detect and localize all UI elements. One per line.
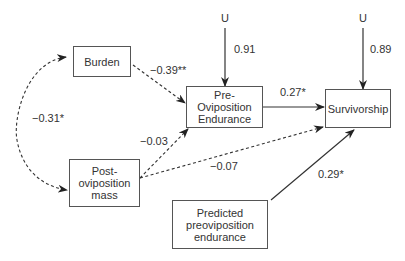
node-pre-oviposition-endurance: Pre- Oviposition Endurance [186, 86, 263, 128]
label-u2: U [359, 12, 367, 24]
node-post-line-3: mass [91, 189, 117, 201]
node-predicted-line-1: Predicted [197, 207, 243, 219]
arrow-predicted-to-survivorship [271, 130, 354, 200]
coef-pre-to-survivorship: 0.27* [280, 86, 306, 98]
node-burden-label: Burden [84, 56, 119, 68]
node-pre-line-3: Endurance [198, 113, 251, 125]
coef-post-to-pre: −0.03 [140, 135, 168, 147]
node-pre-line-2: Oviposition [197, 101, 251, 113]
coef-predicted-to-survivorship: 0.29* [318, 168, 344, 180]
node-survivorship: Survivorship [325, 89, 391, 128]
coef-u1-to-pre: 0.91 [234, 43, 255, 55]
label-u1: U [221, 12, 229, 24]
coef-post-to-survivorship: −0.07 [210, 160, 238, 172]
coef-burden-post-correlation: −0.31* [32, 112, 64, 124]
node-burden: Burden [73, 46, 131, 77]
node-predicted-preoviposition-endurance: Predicted preoviposition endurance [172, 200, 268, 249]
node-post-line-2: oviposition [79, 177, 131, 189]
node-post-oviposition-mass: Post- oviposition mass [69, 159, 140, 207]
node-post-line-1: Post- [92, 165, 118, 177]
node-survivorship-label: Survivorship [328, 103, 389, 115]
coef-u2-to-survivorship: 0.89 [370, 43, 391, 55]
node-predicted-line-2: preoviposition [186, 219, 254, 231]
node-pre-line-1: Pre- [214, 89, 235, 101]
coef-burden-to-pre: −0.39** [150, 64, 186, 76]
node-predicted-line-3: endurance [194, 231, 246, 243]
